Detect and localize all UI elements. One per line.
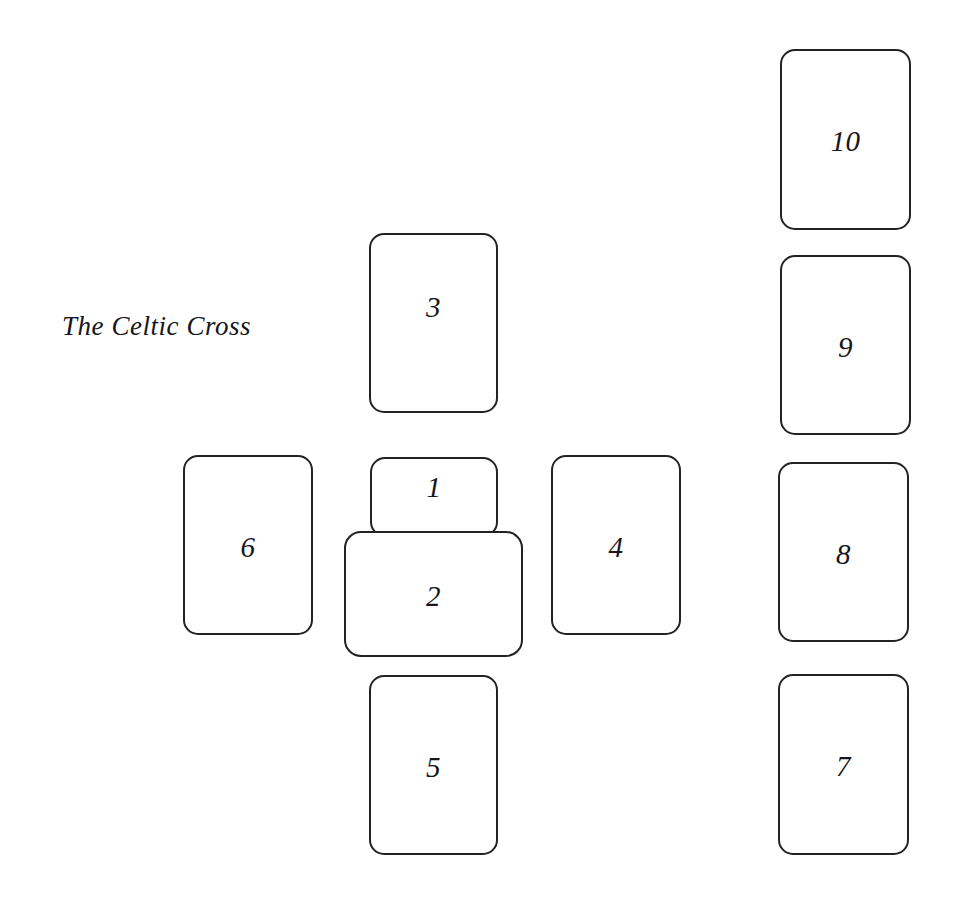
card-number-label: 2 [426, 582, 441, 611]
card-number-label: 5 [426, 753, 441, 782]
tarot-card-position-2[interactable]: 2 [344, 531, 523, 657]
tarot-card-position-1[interactable]: 1 [370, 457, 498, 537]
card-number-label: 10 [831, 127, 861, 156]
tarot-card-position-4[interactable]: 4 [551, 455, 681, 635]
card-number-label: 7 [836, 752, 851, 781]
tarot-card-position-6[interactable]: 6 [183, 455, 313, 635]
celtic-cross-spread-diagram: The Celtic Cross 12345678910 [0, 0, 954, 907]
card-number-label: 4 [609, 533, 624, 562]
card-number-label: 9 [838, 333, 853, 362]
tarot-card-position-5[interactable]: 5 [369, 675, 498, 855]
tarot-card-position-8[interactable]: 8 [778, 462, 909, 642]
tarot-card-position-10[interactable]: 10 [780, 49, 911, 230]
tarot-card-position-3[interactable]: 3 [369, 233, 498, 413]
card-number-label: 3 [426, 293, 441, 322]
card-number-label: 1 [427, 473, 442, 502]
tarot-card-position-7[interactable]: 7 [778, 674, 909, 855]
tarot-card-position-9[interactable]: 9 [780, 255, 911, 435]
spread-title: The Celtic Cross [62, 311, 251, 342]
card-number-label: 8 [836, 540, 851, 569]
card-number-label: 6 [241, 533, 256, 562]
